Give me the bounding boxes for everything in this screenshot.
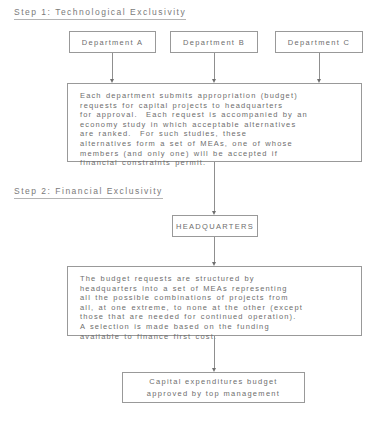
connector-department-a (112, 53, 113, 79)
headquarters-box: HEADQUARTERS (172, 215, 258, 237)
department-c-box: Department C (275, 31, 363, 53)
department-b-box: Department B (170, 31, 258, 53)
headquarters-label: HEADQUARTERS (176, 221, 254, 232)
step-2-heading: Step 2: Financial Exclusivity (14, 186, 163, 199)
department-c-label: Department C (288, 37, 350, 48)
step-1-detail-box: Each department submits appropriation (b… (67, 83, 362, 162)
connector-step1-to-headquarters (214, 162, 215, 211)
step-1-heading: Step 1: Technological Exclusivity (14, 7, 186, 20)
connector-step2-to-result (214, 336, 215, 368)
department-b-label: Department B (183, 37, 245, 48)
connector-department-c (319, 53, 320, 79)
connector-department-b (214, 53, 215, 79)
department-a-label: Department A (82, 37, 143, 48)
capital-expenditures-budget-box: Capital expenditures budget approved by … (122, 372, 305, 403)
capital-expenditures-budget-label: Capital expenditures budget approved by … (147, 376, 280, 399)
step-2-detail-box: The budget requests are structured by he… (67, 266, 362, 336)
connector-headquarters-to-step2 (214, 237, 215, 262)
flowchart-canvas: Step 1: Technological Exclusivity Depart… (0, 0, 376, 425)
department-a-box: Department A (69, 31, 156, 53)
step-1-detail-text: Each department submits appropriation (b… (80, 91, 352, 168)
step-2-detail-text: The budget requests are structured by he… (80, 274, 352, 341)
